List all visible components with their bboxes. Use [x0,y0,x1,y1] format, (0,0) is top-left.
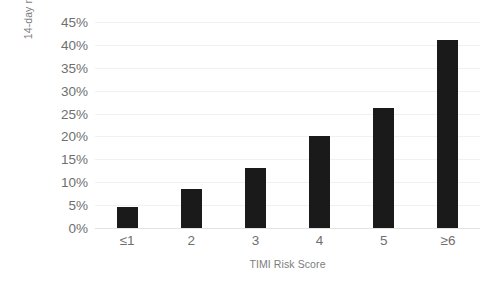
y-axis-tick-label: 0% [36,221,88,236]
x-axis-tick-label: 3 [223,233,287,255]
y-axis-tick-label: 45% [36,15,88,30]
bar-slot [95,22,159,228]
bar-slot [223,22,287,228]
bar-slot [352,22,416,228]
x-axis-tick-label: 4 [288,233,352,255]
bar[interactable] [309,136,330,228]
axis-baseline [95,228,480,229]
x-axis-tick-label: ≥6 [416,233,480,255]
bar[interactable] [245,168,266,228]
bar[interactable] [437,40,458,228]
bars-layer [95,22,480,228]
x-axis-tick-label: 2 [159,233,223,255]
y-axis-tick-label: 20% [36,129,88,144]
bar-chart: 14-day risk 0%5%10%15%20%25%30%35%40%45%… [0,0,500,291]
y-axis-tick-label: 5% [36,198,88,213]
y-axis-tick-label: 25% [36,106,88,121]
bar[interactable] [117,207,138,229]
y-axis-tick-label: 10% [36,175,88,190]
bar-slot [159,22,223,228]
y-axis-tick-labels: 0%5%10%15%20%25%30%35%40%45% [36,22,88,228]
y-axis-tick-label: 35% [36,60,88,75]
bar[interactable] [181,189,202,228]
x-axis-title: TIMI Risk Score [95,258,480,270]
x-axis-tick-label: 5 [352,233,416,255]
x-axis-tick-label: ≤1 [95,233,159,255]
x-axis-tick-labels: ≤12345≥6 [95,233,480,255]
y-axis-tick-label: 40% [36,37,88,52]
bar[interactable] [373,108,394,228]
y-axis-tick-label: 15% [36,152,88,167]
bar-slot [416,22,480,228]
y-axis-tick-label: 30% [36,83,88,98]
plot-area [95,22,480,228]
bar-slot [288,22,352,228]
